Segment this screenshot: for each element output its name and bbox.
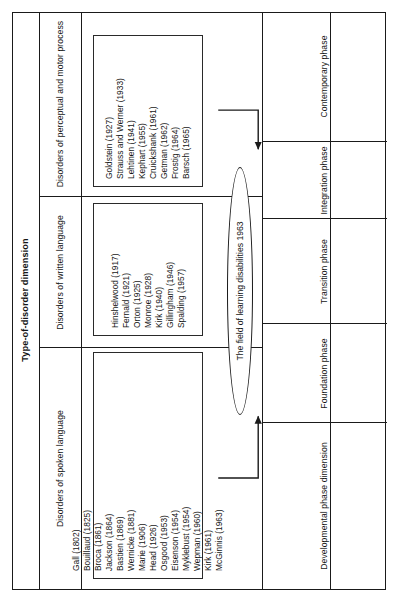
connector-spoken-to-field [218, 416, 258, 478]
figure-table-frame: Type-of-disorder dimension Developmental… [12, 12, 386, 590]
connector-perceptual-to-field [218, 110, 258, 149]
connector-layer [13, 0, 404, 589]
learning-disabilities-figure: Type-of-disorder dimension Developmental… [0, 0, 404, 594]
